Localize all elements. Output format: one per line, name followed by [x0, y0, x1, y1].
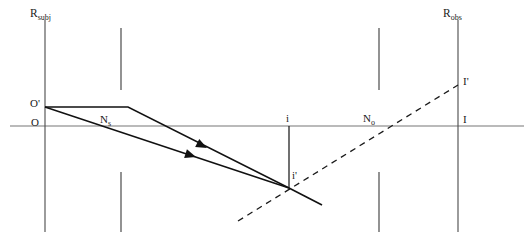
diagram-canvas — [0, 0, 530, 247]
image-prime-label: I' — [463, 76, 469, 87]
image-label: I — [463, 114, 467, 125]
nodal-subject-label: Ns — [100, 114, 111, 128]
object-prime-label: O' — [30, 98, 40, 109]
object-label: O — [31, 117, 39, 128]
optical-ray-diagram: Rsubj Robs O' O Ns i i' No I' I — [0, 0, 530, 247]
intermediate-axis-point-label: i — [286, 113, 289, 124]
exit-ray-to-lower-right — [289, 188, 322, 205]
nodal-observer-label: No — [363, 113, 375, 127]
ray-direction-arrow-upper — [195, 139, 209, 152]
virtual-image-ray-dashed — [238, 85, 458, 221]
ray-direction-arrow-lower — [184, 149, 197, 161]
observer-plane-label: Robs — [443, 8, 462, 22]
intermediate-image-point-label: i' — [292, 170, 297, 181]
lower-ray-from-object-prime — [45, 107, 289, 188]
subject-plane-label: Rsubj — [30, 8, 51, 22]
